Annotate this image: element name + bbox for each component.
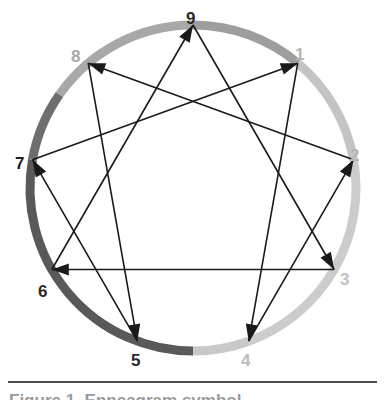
arc-9-to-1 bbox=[193, 25, 298, 63]
point-label-1: 1 bbox=[295, 46, 304, 63]
point-label-8: 8 bbox=[71, 48, 80, 65]
enneagram-figure: 912345678 Figure 1. Enneagram symbol bbox=[0, 0, 385, 400]
enneagram-canvas bbox=[0, 0, 385, 400]
figure-caption: Figure 1. Enneagram symbol bbox=[9, 391, 381, 400]
triangle-arrowhead-at-3 bbox=[320, 252, 334, 270]
point-label-2: 2 bbox=[350, 147, 359, 164]
point-label-6: 6 bbox=[38, 283, 47, 300]
circle-arc-group bbox=[30, 25, 356, 351]
point-label-5: 5 bbox=[131, 352, 140, 369]
caption-divider-rule bbox=[8, 381, 377, 383]
point-label-3: 3 bbox=[340, 271, 349, 288]
arc-7-to-8 bbox=[32, 95, 59, 160]
arc-5-to-7 bbox=[30, 160, 193, 351]
triangle-edge-9-to-3 bbox=[193, 25, 334, 270]
point-label-9: 9 bbox=[186, 10, 195, 27]
hexad-arrowhead-at-8 bbox=[88, 63, 106, 74]
arc-1-to-2 bbox=[298, 63, 354, 160]
hexad-arrowhead-at-1 bbox=[280, 63, 298, 74]
point-label-4: 4 bbox=[241, 352, 250, 369]
arc-4-to-5 bbox=[193, 341, 249, 351]
point-label-7: 7 bbox=[15, 155, 24, 172]
